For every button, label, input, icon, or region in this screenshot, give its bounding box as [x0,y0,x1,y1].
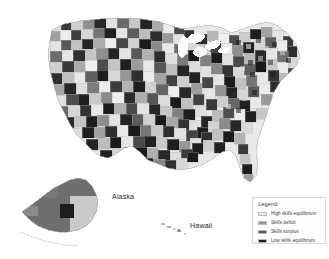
legend-item-high-skills-equilibrium[interactable]: High skills equilibrium [258,210,321,218]
legend-label-skills-surplus: Skills surplus [271,229,299,235]
map-legend: Legend High skills equilibrium Skills de… [252,197,326,244]
legend-swatch-low-skills-equilibrium [258,239,267,244]
legend-swatch-skills-deficit [258,221,267,226]
legend-swatch-high-skills-equilibrium [258,212,267,217]
legend-item-low-skills-equilibrium[interactable]: Low skills equilibrium [258,237,321,245]
legend-item-skills-deficit[interactable]: Skills deficit [258,219,321,227]
alaska-label: Alaska [112,192,134,201]
hawaii-label: Hawaii [190,221,212,230]
legend-title: Legend [258,201,321,207]
legend-swatch-skills-surplus [258,230,267,235]
screenshot-root: Alaska Hawaii Legend High skills equilib… [0,0,329,259]
legend-label-low-skills-equilibrium: Low skills equilibrium [271,238,315,244]
legend-label-skills-deficit: Skills deficit [271,220,296,226]
legend-label-high-skills-equilibrium: High skills equilibrium [271,211,316,217]
legend-item-skills-surplus[interactable]: Skills surplus [258,228,321,236]
